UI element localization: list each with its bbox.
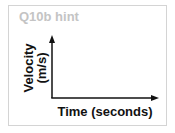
- x-axis-arrow-icon: [151, 95, 159, 101]
- y-axis-label-line2: (m/s): [35, 43, 48, 92]
- x-axis-label: Time (seconds): [57, 104, 152, 119]
- y-axis-arrow-icon: [49, 35, 55, 43]
- y-axis-label: Velocity (m/s): [22, 43, 48, 92]
